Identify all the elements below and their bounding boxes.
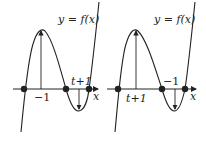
root-dot [115,86,121,92]
diagram-canvas: y = f(x) −1 t+1 x y = f(x) t+1 −1 x [0,0,206,141]
root-dot [182,86,188,92]
right-panel: y = f(x) t+1 −1 x [107,2,197,132]
curve-label: y = f(x) [153,13,195,26]
tick-label-above: −1 [163,75,179,88]
tick-label-below: t+1 [126,92,147,105]
tick-label-below: −1 [34,91,50,104]
root-dot [63,86,69,92]
left-panel: y = f(x) −1 t+1 x [13,2,100,132]
curve-label: y = f(x) [57,13,99,26]
x-axis-label: x [190,90,197,103]
x-axis-label: x [93,90,100,103]
tick-label-above: t+1 [71,75,92,88]
root-dot [21,86,27,92]
